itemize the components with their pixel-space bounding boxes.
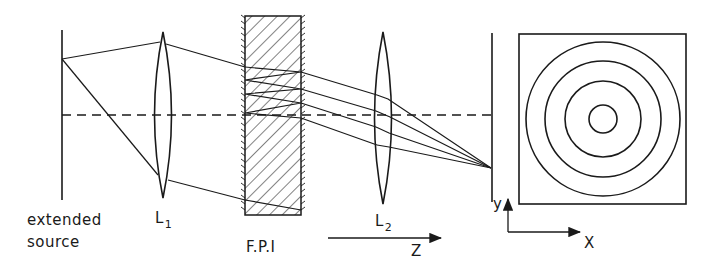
rays-l1-to-fpi [166, 44, 245, 200]
label-l1-sub: 1 [165, 218, 173, 231]
rays-l2-to-focus [376, 95, 491, 168]
label-source: source [27, 235, 80, 250]
lens-l2 [375, 32, 392, 204]
label-x: X [584, 236, 595, 251]
label-l1: L1 [155, 211, 172, 226]
label-fpi: F.P.I [246, 240, 275, 255]
label-extended: extended [27, 213, 102, 228]
rays-source-to-l1 [62, 42, 160, 175]
label-y: y [493, 197, 502, 212]
rays-fpi-to-l2 [301, 72, 377, 145]
label-l2-main: L [375, 212, 384, 230]
label-l2-sub: 2 [385, 221, 393, 234]
fpi-diagram [0, 0, 708, 275]
circular-fringes [526, 42, 680, 196]
label-z: Z [411, 244, 422, 259]
label-l1-main: L [155, 209, 164, 227]
label-l2: L2 [375, 214, 392, 229]
